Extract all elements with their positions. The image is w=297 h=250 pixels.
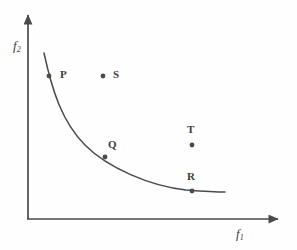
plot-canvas xyxy=(0,0,297,250)
x-axis-label-subscript: 1 xyxy=(240,233,244,242)
x-axis-label: f1 xyxy=(236,226,244,242)
y-axis-label-subscript: 2 xyxy=(17,45,21,54)
data-point-r xyxy=(190,189,195,194)
point-label-t: T xyxy=(187,123,194,135)
data-point-group xyxy=(47,74,195,194)
data-point-p xyxy=(47,74,52,79)
point-label-r: R xyxy=(187,170,195,182)
data-point-q xyxy=(103,155,108,160)
point-label-p: P xyxy=(60,68,67,80)
data-point-t xyxy=(190,143,195,148)
point-label-q: Q xyxy=(108,138,117,150)
data-point-s xyxy=(101,74,106,79)
pareto-front-curve xyxy=(44,53,225,192)
y-axis-label: f2 xyxy=(13,38,21,54)
point-label-s: S xyxy=(113,68,119,80)
pareto-front-figure: f2 f1 PSQTR xyxy=(0,0,297,250)
